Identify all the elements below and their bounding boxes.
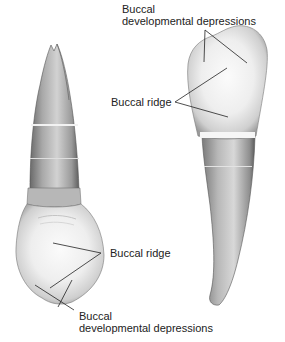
label-bottom-depressions-line2: developmental depressions (79, 322, 213, 334)
label-bottom-depressions: Buccal developmental depressions (79, 310, 213, 334)
label-bottom-depressions-line1: Buccal (79, 310, 213, 322)
left-tooth-root (30, 44, 79, 190)
label-top-depressions: Buccal developmental depressions (122, 3, 256, 27)
left-tooth (16, 44, 104, 304)
label-top-depressions-line1: Buccal (122, 3, 256, 15)
label-top-depressions-line2: developmental depressions (122, 15, 256, 27)
right-tooth-crown (188, 26, 268, 139)
right-tooth-root (202, 136, 255, 305)
tooth-illustration (0, 0, 285, 342)
label-left-buccal-ridge: Buccal ridge (110, 247, 171, 259)
right-tooth (188, 26, 268, 305)
left-tooth-crown (16, 204, 104, 304)
label-right-buccal-ridge: Buccal ridge (111, 96, 172, 108)
